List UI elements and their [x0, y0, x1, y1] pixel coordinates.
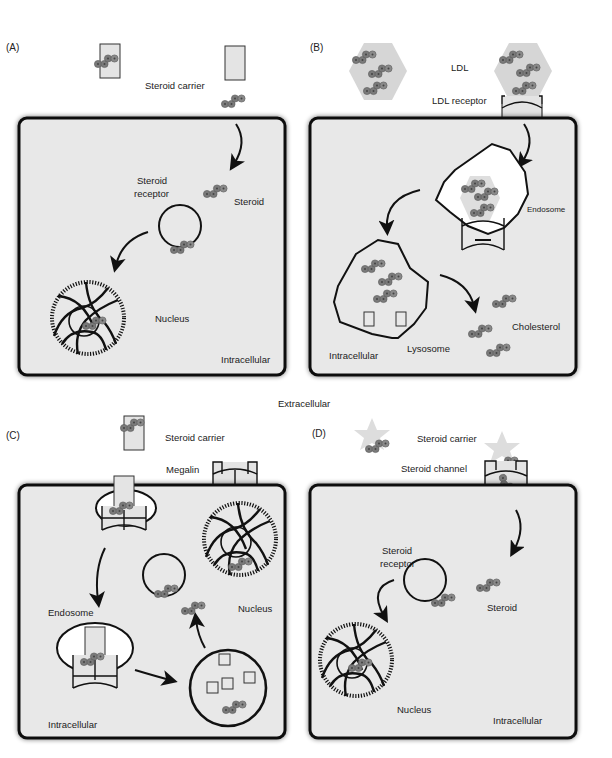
label-receptor-line2: receptor [380, 558, 415, 569]
label-nucleus: Nucleus [238, 603, 273, 614]
label-receptor-line1: Steroid [137, 175, 167, 186]
panel-b: (B) LDL LDL receptor [310, 42, 576, 375]
label-nucleus: Nucleus [155, 313, 190, 324]
label-endosome: Endosome [48, 607, 93, 618]
panel-b-tag: (B) [310, 42, 323, 53]
label-cholesterol: Cholesterol [512, 321, 560, 332]
cell-d [310, 485, 576, 738]
label-steroid: Steroid [487, 602, 517, 613]
steroid-carrier-empty [225, 46, 245, 80]
label-ldl-receptor: LDL receptor [432, 95, 487, 106]
panel-d-tag: (D) [312, 428, 326, 439]
panel-a-tag: (A) [6, 42, 19, 53]
label-receptor-line1: Steroid [382, 545, 412, 556]
label-endosome: Endosome [527, 205, 566, 214]
label-steroid-carrier: Steroid carrier [417, 433, 477, 444]
panel-a: (A) Steroid carrier Steroid receptor Ste… [6, 42, 285, 375]
free-steroid-icon [221, 95, 245, 108]
ldl-particle-bound [494, 43, 552, 100]
label-intracellular: Intracellular [221, 354, 270, 365]
ldl-receptor [502, 96, 542, 120]
panel-c-tag: (C) [6, 430, 20, 441]
steroid-uptake-diagram: (A) Steroid carrier Steroid receptor Ste… [0, 0, 612, 758]
panel-d: (D) Steroid carrier Steroid channel Ster… [310, 418, 576, 738]
label-megalin: Megalin [166, 464, 199, 475]
label-receptor-line2: receptor [134, 188, 169, 199]
label-steroid-channel: Steroid channel [401, 463, 467, 474]
label-ldl: LDL [451, 62, 468, 73]
panel-c: (C) Steroid carrier Megalin Endosome [6, 416, 285, 738]
label-nucleus: Nucleus [397, 704, 432, 715]
label-steroid-carrier: Steroid carrier [165, 432, 225, 443]
cell-b [310, 118, 576, 375]
label-intracellular: Intracellular [329, 350, 378, 361]
label-intracellular: Intracellular [493, 715, 542, 726]
label-steroid: Steroid [234, 196, 264, 207]
label-lysosome: Lysosome [407, 343, 450, 354]
label-intracellular: Intracellular [48, 719, 97, 730]
label-extracellular: Extracellular [278, 398, 330, 409]
label-steroid-carrier: Steroid carrier [145, 80, 205, 91]
ldl-particle [349, 43, 407, 100]
